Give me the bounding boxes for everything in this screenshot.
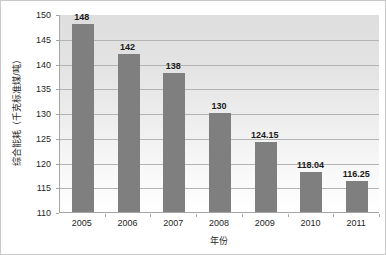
bar[interactable]: [346, 181, 368, 212]
bar-value-label: 138: [166, 61, 181, 71]
bar[interactable]: [118, 54, 140, 212]
bar-value-label: 118.04: [297, 160, 324, 170]
y-axis-tick-mark: [56, 65, 59, 66]
y-axis-tick-mark: [56, 40, 59, 41]
x-axis-tick-label: 2011: [346, 218, 365, 228]
y-axis-tick-mark: [56, 89, 59, 90]
x-axis-tick-mark: [288, 214, 289, 217]
x-axis-tick-label: 2005: [72, 218, 92, 228]
y-axis-tick-label: 115: [1, 183, 51, 193]
bar-value-label: 124.15: [251, 130, 279, 140]
gridline: [60, 89, 379, 90]
x-axis-tick-label: 2009: [255, 218, 275, 228]
y-axis-tick-mark: [56, 139, 59, 140]
gridline: [60, 40, 379, 41]
bar[interactable]: [209, 113, 231, 212]
bar[interactable]: [163, 73, 185, 212]
y-axis-tick-label: 120: [1, 159, 51, 169]
x-axis-tick-label: 2010: [300, 218, 320, 228]
y-axis-title: 综合能耗（千克标准煤/吨）: [10, 16, 23, 206]
x-axis-tick-label: 2006: [118, 218, 138, 228]
y-axis-tick-mark: [56, 188, 59, 189]
y-axis-tick-mark: [56, 164, 59, 165]
y-axis-tick-label: 110: [1, 208, 51, 218]
bar-value-label: 142: [120, 42, 135, 52]
bar-value-label: 130: [211, 101, 226, 111]
bar[interactable]: [72, 24, 94, 212]
x-axis-tick-label: 2007: [163, 218, 183, 228]
x-axis-tick-mark: [379, 214, 380, 217]
x-axis-tick-mark: [105, 214, 106, 217]
bar-value-label: 148: [74, 12, 89, 22]
bar[interactable]: [300, 172, 322, 212]
y-axis-tick-label: 125: [1, 134, 51, 144]
y-axis-tick-label: 150: [1, 10, 51, 20]
x-axis-title: 年份: [59, 234, 379, 247]
x-axis-tick-mark: [242, 214, 243, 217]
bar-value-label: 116.25: [343, 169, 370, 179]
y-axis-tick-mark: [56, 15, 59, 16]
y-axis-tick-label: 130: [1, 109, 51, 119]
y-axis-tick-label: 135: [1, 84, 51, 94]
x-axis-tick-mark: [196, 214, 197, 217]
plot-area: [59, 15, 379, 213]
bar[interactable]: [255, 142, 277, 212]
x-axis-tick-mark: [150, 214, 151, 217]
x-axis-tick-mark: [333, 214, 334, 217]
gridline: [60, 65, 379, 66]
x-axis-tick-label: 2008: [209, 218, 229, 228]
y-axis-tick-label: 140: [1, 60, 51, 70]
chart-figure: 110115120125130135140145150 综合能耗（千克标准煤/吨…: [0, 0, 386, 255]
y-axis-tick-label: 145: [1, 35, 51, 45]
y-axis-tick-mark: [56, 114, 59, 115]
y-axis-tick-mark: [56, 213, 59, 214]
